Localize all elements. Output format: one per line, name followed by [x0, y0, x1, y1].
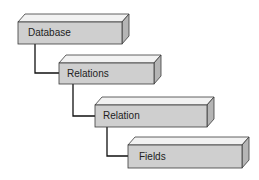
connector-database-relations — [35, 44, 59, 73]
connector-relation-fields — [107, 127, 128, 156]
box-label: Relations — [67, 68, 109, 79]
box-relations: Relations — [59, 55, 161, 84]
connector-relations-relation — [73, 84, 95, 116]
hierarchy-diagram: Database Relations Relation Fields — [0, 0, 259, 180]
box-label: Relation — [103, 110, 140, 121]
box-label: Database — [28, 27, 71, 38]
box-label: Fields — [139, 151, 166, 162]
box-database: Database — [18, 14, 129, 44]
box-fields: Fields — [128, 137, 249, 168]
box-relation: Relation — [95, 97, 214, 127]
